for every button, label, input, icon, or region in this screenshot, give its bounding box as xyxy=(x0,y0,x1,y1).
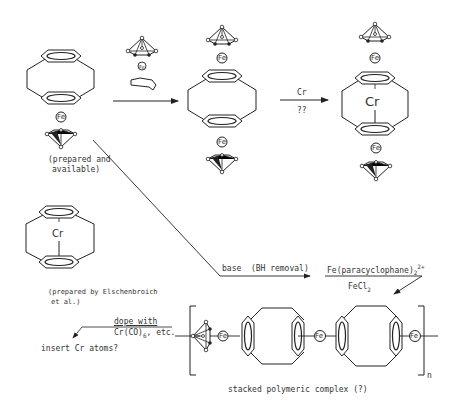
reaction-arrow-base xyxy=(93,140,310,276)
reagent-unknown-label: ?? xyxy=(297,106,307,116)
base-bh-removal-label: base (BH removal) xyxy=(222,264,309,274)
fe-label-polymer-2: Fe xyxy=(315,331,323,341)
reaction-arrow-fecl2 xyxy=(394,276,422,294)
reagent-cr-label: Cr xyxy=(297,88,307,98)
fe-label-3a: Fe xyxy=(371,53,379,63)
cr-co6-label: Cr(CO)6, etc. xyxy=(114,328,175,341)
fe-label-polymer-3: Fe xyxy=(410,331,418,341)
stacked-polymer-complex xyxy=(175,306,438,375)
stacked-polymer-caption: stacked polymeric complex (?) xyxy=(228,385,368,395)
cr-label-product: Cr xyxy=(365,95,379,109)
bis-fe-carborane-paracyclophane xyxy=(188,25,256,174)
elschenbroich-line2: et al.) xyxy=(51,297,81,307)
cr-label-elschenbroich: Cr xyxy=(52,228,63,240)
prepared-available-line2: available) xyxy=(52,165,100,175)
fe-label-3b: Fe xyxy=(372,143,380,153)
elschenbroich-line1: (prepared by Elschenbroich xyxy=(48,287,158,297)
insert-cr-atoms-label: insert Cr atoms? xyxy=(41,344,118,354)
fecl2-label: FeCl2 xyxy=(348,282,371,295)
paracyclophane-fe-carborane xyxy=(27,50,94,149)
fe-label-reagent: Fe xyxy=(139,62,145,72)
fe-label-2a: Fe xyxy=(218,53,226,63)
fe-label-1: Fe xyxy=(57,112,65,122)
prepared-available-line1: (prepared and xyxy=(48,155,111,165)
fe-paracyclophane-label: Fe(paracyclophane)22+ xyxy=(327,262,425,278)
fe-label-2b: Fe xyxy=(218,137,226,147)
fe-label-polymer-1: Fe xyxy=(219,331,227,341)
repeat-n-subscript: n xyxy=(427,371,432,381)
dope-with-label: dope with xyxy=(114,317,157,327)
